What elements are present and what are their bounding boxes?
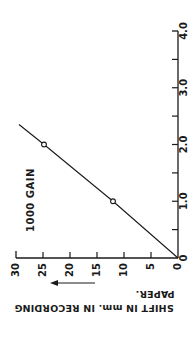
y-tick-label: 15 [91,263,102,277]
calibration-chart: 0 1.0 2.0 3.0 4.0 0 5 10 15 20 25 30 SHI… [0,0,195,346]
y-tick-label: 25 [37,263,48,277]
y-tick-label: 5 [145,263,156,270]
y-tick-labels: 0 5 10 15 20 25 30 [10,263,183,277]
y-tick-label: 20 [64,263,75,277]
y-tick-label: 30 [10,263,21,277]
x-tick-label: 1.0 [178,192,189,210]
gain-annotation: 1000 GAIN [25,168,36,232]
y-axis-title-line1: SHIFT IN mm. IN RECORDING [14,303,173,314]
axes [16,31,178,258]
x-tick-label: 2.0 [178,136,189,154]
y-axis-title: SHIFT IN mm. IN RECORDING PAPER. [14,280,174,314]
y-tick-label: 0 [172,263,183,270]
y-axis-title-line2: PAPER. [135,289,174,300]
y-ticks [43,252,151,258]
x-tick-label: 4.0 [178,22,189,40]
data-point-marker [42,142,47,147]
y-tick-label: 10 [118,263,129,277]
x-tick-labels: 0 1.0 2.0 3.0 4.0 [178,22,189,261]
x-tick-label: 3.0 [178,79,189,97]
arrow-left-icon [50,280,58,286]
x-tick-label: 0 [178,254,189,261]
data-point-marker [111,199,116,204]
